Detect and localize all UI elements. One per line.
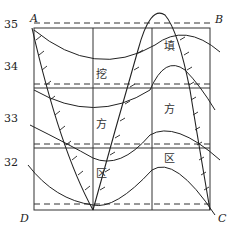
cut-region-char-2: 方 (96, 117, 107, 131)
contour-curve-1 (34, 30, 220, 59)
earthwork-zero-line-diagram: 35 34 33 32 A B D C 挖 方 区 填 方 区 (0, 0, 240, 232)
grid-outline (34, 28, 210, 210)
corner-label-a: A (29, 12, 38, 25)
corner-label-d: D (19, 212, 29, 225)
cut-region-char-1: 挖 (96, 67, 107, 81)
corner-label-c: C (218, 212, 227, 225)
contour-label-35: 35 (4, 18, 18, 31)
zero-line-left (32, 28, 93, 210)
fill-region-char-1: 填 (164, 39, 175, 53)
contour-label-34: 34 (4, 60, 18, 73)
fill-region-char-2: 方 (164, 102, 175, 116)
contour-curve-3 (30, 125, 220, 161)
contour-curve-4 (28, 165, 215, 215)
contour-label-33: 33 (4, 112, 18, 125)
contour-label-32: 32 (4, 156, 18, 169)
cut-region-char-3: 区 (96, 167, 107, 180)
corner-label-b: B (214, 13, 223, 26)
fill-region-char-3: 区 (164, 152, 175, 165)
